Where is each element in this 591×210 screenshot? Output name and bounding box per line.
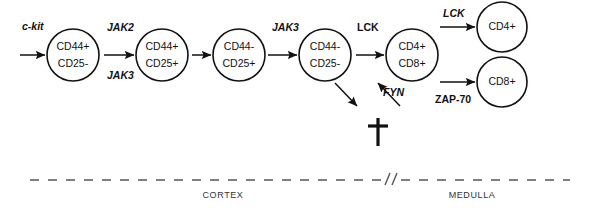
kinase-label-lck-it: LCK	[443, 7, 466, 19]
cell-marker-line1-dn4: CD44-	[310, 40, 341, 52]
cortex-medulla-boundary	[30, 173, 570, 185]
cell-marker-line2-dn3: CD25+	[223, 57, 256, 69]
cell-marker-line1-dn2: CD44+	[146, 40, 179, 52]
zone-labels-group: CORTEXMEDULLA	[203, 190, 496, 200]
apoptosis-marker	[368, 118, 388, 146]
cell-circle-dn2	[136, 29, 188, 81]
cell-marker-line1-dn1: CD44+	[57, 40, 90, 52]
kinase-label-jak2: JAK2	[107, 21, 134, 33]
kinase-label-lck-bold: LCK	[357, 21, 379, 33]
cell-marker-line2-dn1: CD25-	[58, 57, 89, 69]
cell-marker-line1-dn3: CD44-	[224, 40, 255, 52]
boundary-break-slash-1	[385, 173, 390, 185]
cell-marker-line2-dn2: CD25+	[146, 57, 179, 69]
kinase-label-jak3: JAK3	[107, 69, 134, 81]
arrow-death-left	[335, 83, 357, 106]
zone-label-medulla: MEDULLA	[449, 190, 496, 200]
tcell-development-diagram: CD44+CD25-CD44+CD25+CD44-CD25+CD44-CD25-…	[0, 0, 591, 210]
cell-circle-dn1	[47, 29, 99, 81]
kinase-label-c-kit: c-kit	[22, 20, 44, 32]
zone-label-cortex: CORTEX	[203, 190, 244, 200]
cell-circle-dn4	[299, 29, 351, 81]
cell-marker-line1-dp: CD4+	[398, 40, 425, 52]
diagram-canvas: CD44+CD25-CD44+CD25+CD44-CD25+CD44-CD25-…	[0, 0, 591, 210]
cell-marker-line2-dn4: CD25-	[310, 57, 341, 69]
kinase-label-jak3-b: JAK3	[272, 21, 299, 33]
boundary-break-slash-2	[392, 173, 397, 185]
kinase-label-fyn: FYN	[383, 86, 404, 98]
cell-circle-dn3	[213, 29, 265, 81]
kinase-label-zap70: ZAP-70	[435, 93, 471, 105]
cell-marker-line1-sp-cd8: CD8+	[488, 75, 515, 87]
cell-marker-line2-dp: CD8+	[398, 57, 425, 69]
cell-marker-line1-sp-cd4: CD4+	[488, 20, 515, 32]
cell-circle-dp	[386, 29, 438, 81]
